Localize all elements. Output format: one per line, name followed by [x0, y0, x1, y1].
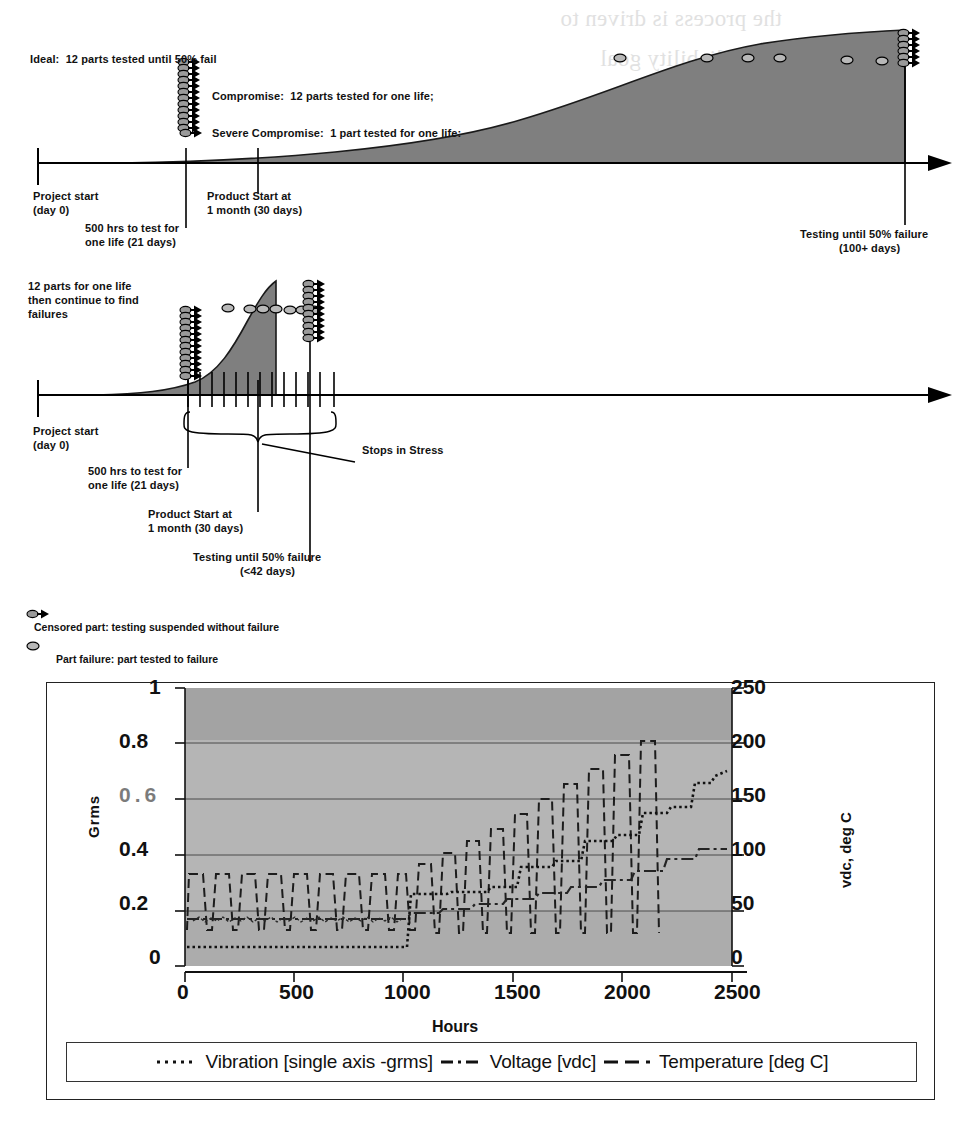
- label-project-start-one-l1: Project start: [33, 190, 99, 203]
- label-project-start-two-l2: (day 0): [33, 439, 69, 452]
- legend-item-temperature: Temperature [deg C]: [602, 1051, 828, 1073]
- censored-part-icon: [26, 608, 52, 620]
- callout-compromise: Compromise: 12 parts tested for one life…: [212, 90, 434, 103]
- label-fifty-failure-one-l2: (100+ days): [839, 242, 900, 255]
- stops-in-stress-leader: [262, 444, 355, 462]
- label-product-start-two-l2: 1 month (30 days): [148, 522, 243, 535]
- label-one-life-one-l1: 500 hrs to test for: [85, 222, 179, 235]
- label-product-start-two-l1: Product Start at: [148, 508, 232, 521]
- label-product-start-one-l2: 1 month (30 days): [207, 204, 302, 217]
- label-fifty-failure-one-l1: Testing until 50% failure: [800, 228, 928, 241]
- label-fifty-failure-two-l1: Testing until 50% failure: [193, 551, 321, 564]
- key-censored-part: Censored part: testing suspended without…: [26, 608, 279, 633]
- callout-stops-in-stress: Stops in Stress: [362, 444, 444, 457]
- callout-twelve-parts-l3: failures: [28, 308, 68, 321]
- plot-band-dark: [185, 688, 732, 740]
- label-one-life-two-l2: one life (21 days): [88, 479, 179, 492]
- label-one-life-one-l2: one life (21 days): [85, 236, 176, 249]
- key-part-failure-label: Part failure: part tested to failure: [56, 653, 218, 665]
- part-stack-end-one: [898, 29, 920, 68]
- x-axis-ticks: [185, 972, 732, 982]
- legend-item-voltage: Voltage [vdc]: [439, 1051, 596, 1073]
- figure-page: the process is driven to a reliability g…: [0, 0, 970, 1123]
- part-failure-icon: [26, 640, 52, 652]
- temperature-dash-icon: [602, 1056, 652, 1068]
- label-project-start-one-l2: (day 0): [33, 204, 69, 217]
- label-fifty-failure-two-l2: (<42 days): [240, 565, 295, 578]
- timeline-accelerated-step-stress: [0, 272, 970, 582]
- callout-severe-compromise: Severe Compromise: 1 part tested for one…: [212, 127, 461, 140]
- legend-label-voltage: Voltage [vdc]: [490, 1051, 596, 1073]
- legend-label-temperature: Temperature [deg C]: [659, 1051, 828, 1073]
- vibration-dash-icon: [155, 1056, 199, 1068]
- cumulative-failure-area-one: [38, 30, 905, 163]
- part-single-severe-compromise: [180, 129, 202, 138]
- timeline-two-graphic: [0, 272, 970, 582]
- part-stack-compromise: [178, 58, 200, 133]
- stress-profile-chart: 1 0.8 0.6 0.4 0.2 0 250 200 150 100 50 0…: [46, 682, 935, 1100]
- timeline-two-arrowhead: [928, 387, 952, 403]
- y2-axis-ticks: [732, 688, 744, 966]
- key-part-failure: Part failure: part tested to failure: [26, 640, 218, 665]
- legend-item-vibration: Vibration [single axis -grms]: [155, 1051, 433, 1073]
- chart-legend: Vibration [single axis -grms] Voltage [v…: [66, 1042, 917, 1082]
- label-one-life-two-l1: 500 hrs to test for: [88, 465, 182, 478]
- label-project-start-two-l1: Project start: [33, 425, 99, 438]
- label-product-start-one-l1: Product Start at: [207, 190, 291, 203]
- stress-brace: [184, 412, 336, 442]
- callout-ideal: Ideal: 12 parts tested until 50% fail: [30, 53, 217, 66]
- part-stack-two-onelife: [180, 306, 202, 381]
- callout-twelve-parts-l2: then continue to find: [28, 294, 139, 307]
- y-axis-ticks: [175, 688, 185, 966]
- voltage-dash-icon: [439, 1056, 483, 1068]
- legend-label-vibration: Vibration [single axis -grms]: [206, 1051, 433, 1073]
- callout-twelve-parts-l1: 12 parts for one life: [28, 280, 132, 293]
- plot-area: [47, 683, 936, 1101]
- key-censored-part-label: Censored part: testing suspended without…: [34, 621, 279, 633]
- timeline-one-arrowhead: [928, 155, 952, 171]
